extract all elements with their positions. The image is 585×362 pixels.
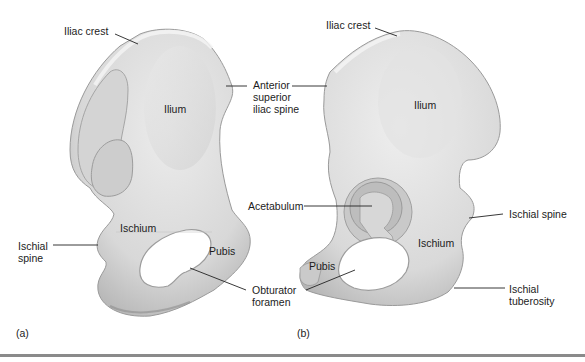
label-b-acetabulum: Acetabulum bbox=[248, 200, 303, 212]
panel-tag-b: (b) bbox=[297, 327, 310, 339]
label-b-ischium: Ischium bbox=[418, 237, 454, 249]
label-a-ischium: Ischium bbox=[120, 222, 156, 234]
label-a-ilium: Ilium bbox=[164, 103, 186, 115]
panel-tag-a: (a) bbox=[16, 327, 29, 339]
label-anterior-superior-iliac-spine: Anterior superior iliac spine bbox=[253, 79, 299, 115]
label-a-pubis: Pubis bbox=[209, 245, 235, 257]
bottom-divider bbox=[0, 354, 585, 357]
label-b-iliac-crest: Iliac crest bbox=[326, 19, 370, 31]
label-b-ischial-spine: Ischial spine bbox=[509, 208, 567, 220]
label-obturator-foramen: Obturator foramen bbox=[252, 284, 296, 308]
label-b-ilium: Ilium bbox=[414, 99, 436, 111]
hip-bone-figure: Iliac crest Ilium Ischium Pubis Ischial … bbox=[0, 0, 585, 362]
label-b-ischial-tuberosity: Ischial tuberosity bbox=[509, 283, 555, 307]
label-b-pubis: Pubis bbox=[309, 260, 335, 272]
label-a-ischial-spine: Ischial spine bbox=[18, 240, 48, 264]
